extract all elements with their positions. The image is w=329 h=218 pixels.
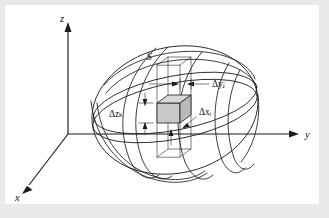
x-axis-arrowhead (22, 186, 33, 194)
ellipsoid-meridian-5 (228, 70, 254, 169)
surface-label-S: S (146, 51, 152, 62)
box-face-front (157, 103, 180, 123)
delta-y-label: Δyⱼ (212, 79, 225, 89)
ellipsoid-band-right (241, 95, 259, 162)
delta-z-arrow-down (143, 99, 148, 106)
ellipsoid-meridian-1 (123, 48, 159, 178)
figure-page: z y x S Δyⱼ Δzₖ Δxᵢ (0, 0, 329, 218)
prism-cap-bottom (157, 149, 191, 157)
y-axis-arrowhead (289, 131, 299, 138)
delta-x-depth-arrow (169, 129, 174, 136)
highlighted-box (157, 95, 191, 123)
x-axis-line (29, 134, 68, 185)
delta-y-arrow-inner-right (187, 82, 194, 87)
z-axis-arrowhead (65, 22, 72, 32)
delta-x-label: Δxᵢ (199, 107, 212, 117)
figure-plate: z y x S Δyⱼ Δzₖ Δxᵢ (5, 5, 319, 204)
x-axis-label: x (14, 192, 20, 203)
delta-z-label: Δzₖ (109, 109, 123, 119)
ellipsoid-diagram-svg: z y x S Δyⱼ Δzₖ Δxᵢ (5, 5, 319, 204)
prism-cap-top (157, 57, 191, 65)
ellipsoid-latitude-upper (104, 51, 255, 85)
z-axis-label: z (59, 13, 64, 24)
y-axis-label: y (304, 129, 310, 140)
